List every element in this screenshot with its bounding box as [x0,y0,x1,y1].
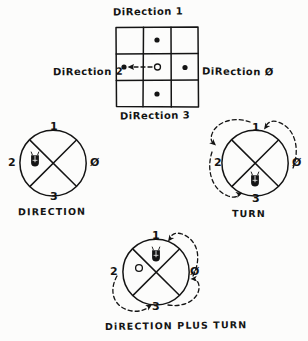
circle-turn-arc-one-to-two [209,120,250,146]
circle-dirturn-label-left: 2 [110,265,118,278]
grid-label-direction-2: DiRection 2 [53,66,123,77]
grid-marker-bottom-center [154,91,159,96]
circle-turn [222,130,288,196]
grid-marker-center-open [155,64,161,70]
circle-direction-bug-icon [31,152,39,166]
circle-dirturn-bug-icon [152,247,160,261]
circle-direction [20,130,86,196]
caption-direction-plus-turn: DiRECTION PLUS TURN [105,319,247,332]
circle-direction-plus-turn [123,239,189,305]
circle-direction-label-top: 1 [50,120,58,133]
circle-direction-label-bottom: 3 [50,190,58,203]
circle-turn-label-top: 1 [252,121,260,134]
grid-marker-top-center [154,37,159,42]
circle-dirturn-open-dot-marker [136,265,143,272]
circle-turn-bug-icon [251,172,259,186]
ink-layer [0,0,308,341]
grid-title-direction-1: DiRection 1 [113,6,183,18]
circle-dirturn-arc-three-to-zero [168,276,199,306]
circle-direction-label-right: Ø [90,156,100,169]
caption-turn: TURN [232,208,266,219]
circle-turn-label-bottom: 3 [252,192,260,205]
circle-dirturn-label-right: Ø [190,265,200,278]
grid-marker-middle-right [182,65,187,70]
diagram-page: DiRection 1 DiRection 2 DiRection Ø DiRe… [0,0,308,341]
circle-dirturn-label-bottom: 3 [152,300,160,313]
grid-3x3 [116,27,199,107]
circle-dirturn-label-top: 1 [152,229,160,242]
circle-direction-label-left: 2 [8,156,16,169]
circle-turn-label-left: 2 [214,156,222,169]
caption-direction: DIRECTION [18,206,86,217]
grid-label-direction-0: DiRection Ø [202,66,274,78]
circle-dirturn-arc-two-to-three [113,276,152,311]
circle-turn-label-right: Ø [292,156,302,169]
grid-label-direction-3: DiRection 3 [120,110,190,122]
grid-motion-arrow-left [128,64,153,70]
